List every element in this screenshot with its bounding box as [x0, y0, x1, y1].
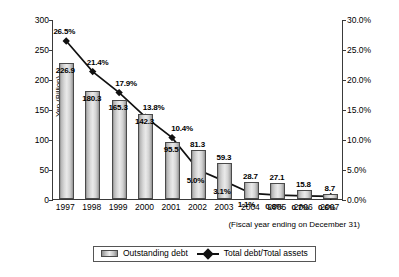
line-value-label: 17.9%	[106, 80, 146, 88]
bar	[59, 63, 74, 199]
y-axis-right-tickmark	[342, 200, 346, 201]
y-axis-left-tickmark	[49, 110, 53, 111]
line-diamond-marker-icon	[197, 250, 219, 258]
line-value-label: 21.4%	[78, 59, 118, 67]
line-value-label: 3.1%	[202, 188, 242, 196]
y-axis-right-tickmark	[342, 80, 346, 81]
y-axis-right-tickmark	[342, 170, 346, 171]
y-axis-right-tickmark	[342, 110, 346, 111]
bar-value-label: 180.3	[72, 95, 112, 103]
bar	[323, 194, 338, 199]
y-axis-right-tick-label: 30.0%	[347, 16, 371, 24]
legend-item-total-debt-ratio: Total debt/Total assets	[197, 249, 308, 258]
y-axis-left-tickmark	[49, 200, 53, 201]
y-axis-left-tick-label: 50	[40, 166, 49, 174]
line-value-label: 26.5%	[44, 28, 84, 36]
debt-ratio-chart: Yen (Billion) 0501001502002503000.0%5.0%…	[0, 0, 399, 277]
y-axis-left-tickmark	[49, 140, 53, 141]
bar	[138, 114, 153, 199]
bar-value-label: 8.7	[310, 185, 350, 193]
y-axis-right-tick-label: 5.0%	[347, 166, 366, 174]
bar-value-label: 59.3	[204, 154, 244, 162]
y-axis-left-tick-label: 100	[35, 136, 49, 144]
y-axis-left-tickmark	[49, 170, 53, 171]
line-value-label: 5.0%	[176, 177, 216, 185]
x-axis-title: (Fiscal year ending on December 31)	[0, 220, 360, 229]
y-axis-right-tick-label: 15.0%	[347, 106, 371, 114]
y-axis-right-tick-label: 25.0%	[347, 46, 371, 54]
bar-swatch-icon	[101, 250, 118, 257]
x-axis-tick-label: 2007	[310, 203, 350, 212]
y-axis-left-tick-label: 150	[35, 106, 49, 114]
bar-value-label: 226.9	[45, 67, 85, 75]
plot-area: 0501001502002503000.0%5.0%10.0%15.0%20.0…	[52, 20, 343, 200]
legend-label-total-debt-ratio: Total debt/Total assets	[224, 249, 308, 258]
y-axis-right-tickmark	[342, 20, 346, 21]
y-axis-right-tickmark	[342, 50, 346, 51]
y-axis-left-tickmark	[49, 80, 53, 81]
y-axis-right-tick-label: 20.0%	[347, 76, 371, 84]
bar	[112, 100, 127, 199]
y-axis-right-tick-label: 10.0%	[347, 136, 371, 144]
y-axis-left-tickmark	[49, 20, 53, 21]
bar-value-label: 142.3	[125, 118, 165, 126]
bar-value-label: 165.3	[98, 104, 138, 112]
legend-label-outstanding-debt: Outstanding debt	[123, 249, 188, 258]
y-axis-left-tick-label: 300	[35, 16, 49, 24]
bar	[244, 182, 259, 199]
line-value-label: 13.8%	[134, 104, 174, 112]
y-axis-left-tick-label: 200	[35, 76, 49, 84]
y-axis-right-tick-label: 0.0%	[347, 196, 366, 204]
line-value-label: 10.4%	[162, 125, 202, 133]
legend-item-outstanding-debt: Outstanding debt	[101, 249, 188, 258]
y-axis-right-tickmark	[342, 140, 346, 141]
y-axis-left-tick-label: 250	[35, 46, 49, 54]
chart-legend: Outstanding debt Total debt/Total assets	[93, 246, 316, 262]
y-axis-left-tickmark	[49, 50, 53, 51]
bar-value-label: 81.3	[178, 141, 218, 149]
